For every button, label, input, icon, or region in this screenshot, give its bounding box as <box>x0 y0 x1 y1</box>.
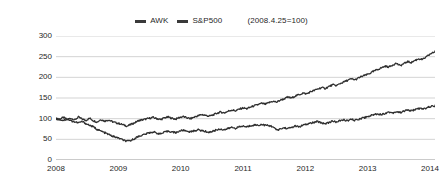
y-tick-label: 200 <box>18 73 52 81</box>
x-tick-label: 2012 <box>296 164 314 174</box>
series-line-sp500 <box>56 105 435 141</box>
x-tick-label: 2013 <box>359 164 377 174</box>
y-tick-label: 300 <box>18 32 52 40</box>
legend-base-note: (2008.4.25=100) <box>247 16 307 26</box>
legend-swatch-sp500 <box>177 20 188 23</box>
gridlines <box>56 36 435 139</box>
x-axis-tick-labels: 2008200920102011201220132014 <box>56 164 435 176</box>
series-line-awk <box>56 51 435 127</box>
y-tick-label: 100 <box>18 115 52 123</box>
chart-legend: AWK S&P500 (2008.4.25=100) <box>0 14 443 28</box>
x-tick-label: 2014 <box>421 164 439 174</box>
plot-svg <box>56 36 435 160</box>
chart-container: AWK S&P500 (2008.4.25=100) 0501001502002… <box>0 0 443 190</box>
x-tick-label: 2011 <box>234 164 251 174</box>
y-axis-tick-labels: 050100150200250300 <box>18 36 52 160</box>
x-tick-label: 2009 <box>109 164 127 174</box>
legend-entry-sp500: S&P500 <box>177 16 222 26</box>
y-tick-label: 150 <box>18 94 52 102</box>
y-tick-label: 50 <box>18 135 52 143</box>
y-tick-label: 250 <box>18 53 52 61</box>
legend-swatch-awk <box>135 20 146 23</box>
legend-entry-awk: AWK <box>135 16 168 26</box>
legend-label-awk: AWK <box>150 16 168 26</box>
y-tick-label: 0 <box>18 156 52 164</box>
plot-area <box>56 36 435 160</box>
series-lines <box>56 51 435 142</box>
x-tick-label: 2008 <box>47 164 65 174</box>
x-tick-label: 2010 <box>172 164 190 174</box>
legend-label-sp500: S&P500 <box>192 16 222 26</box>
